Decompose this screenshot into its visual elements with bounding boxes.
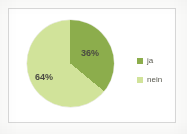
pie-shape — [27, 20, 114, 107]
pie-chart: 36% 64% — [27, 20, 114, 107]
legend-swatch-nein-icon — [137, 77, 143, 83]
plot-area: 36% 64% ja nein — [9, 9, 175, 122]
legend-item-nein[interactable]: nein — [137, 73, 162, 87]
pie-slice-label-nein: 64% — [35, 72, 53, 82]
legend-swatch-ja-icon — [137, 58, 143, 64]
legend-label-ja: ja — [147, 57, 153, 65]
legend-label-nein: nein — [147, 76, 162, 84]
legend-item-ja[interactable]: ja — [137, 54, 162, 68]
pie-slice-label-ja: 36% — [81, 48, 99, 58]
chart-legend: ja nein — [137, 54, 162, 92]
chart-frame: 36% 64% ja nein — [8, 8, 176, 123]
chart-screenshot: 36% 64% ja nein — [0, 0, 187, 134]
